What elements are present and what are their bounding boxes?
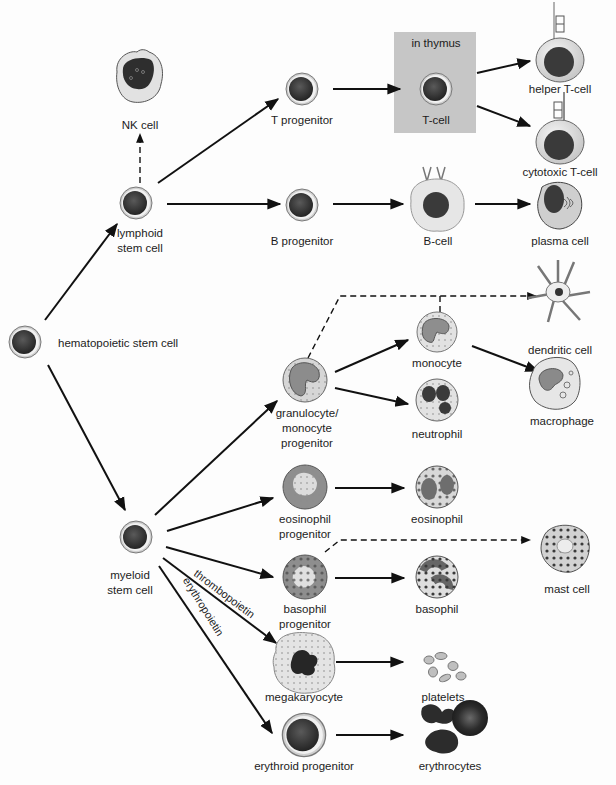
hsc-cell <box>9 326 41 358</box>
myeloid-label-line2: stem cell <box>107 583 152 598</box>
erythroid-progenitor-label: erythroid progenitor <box>254 759 354 774</box>
helper-t-cell <box>536 2 584 82</box>
t-cell <box>420 73 452 105</box>
mast-cell-label: mast cell <box>544 582 589 597</box>
basophil-progenitor-cell <box>283 555 327 599</box>
t-progenitor-cell <box>286 73 318 105</box>
dendritic-cell-label: dendritic cell <box>528 343 592 358</box>
eos-progenitor-label-line2: progenitor <box>279 527 331 542</box>
t-progenitor-label: T progenitor <box>271 113 333 128</box>
helper-t-cell-label: helper T-cell <box>529 82 591 97</box>
platelets-cluster <box>424 653 466 684</box>
gran-mono-label-line1: granulocyte/ <box>276 406 339 421</box>
b-cell-label: B-cell <box>424 234 453 249</box>
erythroid-progenitor-cell <box>282 713 325 756</box>
granulocyte-monocyte-progenitor-cell <box>283 358 327 402</box>
cytotoxic-t-cell <box>536 92 584 164</box>
gran-mono-label-line3: progenitor <box>281 436 333 451</box>
megakaryocyte-cell <box>273 633 335 694</box>
lymphoid-label-line2: stem cell <box>117 241 162 256</box>
basophil-label: basophil <box>416 602 459 617</box>
dashed-edges <box>140 134 536 552</box>
plasma-cell-label: plasma cell <box>531 234 589 249</box>
macrophage-label: macrophage <box>530 414 594 429</box>
baso-progenitor-label-line2: progenitor <box>279 617 331 632</box>
eosinophil-progenitor-cell <box>283 465 327 509</box>
dendritic-cell <box>528 260 590 322</box>
erythrocytes-cluster <box>421 700 488 754</box>
baso-progenitor-label-line1: basophil <box>284 602 327 617</box>
plasma-cell <box>538 182 582 229</box>
b-cell <box>411 167 464 231</box>
myeloid-label-line1: myeloid <box>110 568 150 583</box>
eosinophil-cell <box>416 466 458 508</box>
myeloid-stem-cell <box>120 521 152 553</box>
b-progenitor-label: B progenitor <box>271 234 334 249</box>
monocyte-label: monocyte <box>412 356 462 371</box>
thymus-label: in thymus <box>411 36 460 51</box>
neutrophil-cell <box>416 379 458 421</box>
mast-cell <box>541 525 589 572</box>
nk-cell-label: NK cell <box>122 118 158 133</box>
platelets-label: platelets <box>422 690 465 705</box>
cytotoxic-t-cell-label: cytotoxic T-cell <box>522 165 597 180</box>
monocyte-cell <box>417 312 457 352</box>
t-cell-label: T-cell <box>422 113 449 128</box>
eosinophil-label: eosinophil <box>411 512 463 527</box>
basophil-cell <box>416 556 458 598</box>
lymphoid-label-line1: lymphoid <box>117 226 163 241</box>
gran-mono-label-line2: monocyte <box>282 421 332 436</box>
eos-progenitor-label-line1: eosinophil <box>279 512 331 527</box>
megakaryocyte-label: megakaryocyte <box>265 690 343 705</box>
erythrocytes-label: erythrocytes <box>419 759 482 774</box>
lymphoid-stem-cell <box>120 187 152 219</box>
macrophage-cell <box>530 357 581 409</box>
hsc-label: hematopoietic stem cell <box>58 336 178 351</box>
neutrophil-label: neutrophil <box>412 427 463 442</box>
hematopoiesis-diagram: in thymus T-cell NK cell T progenitor he… <box>0 0 616 785</box>
nk-cell <box>117 50 163 103</box>
b-progenitor-cell <box>286 189 318 221</box>
